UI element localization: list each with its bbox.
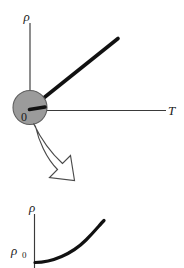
top-panel: ρ T 0 bbox=[13, 9, 176, 125]
bottom-panel: ρ ρ 0 bbox=[10, 200, 104, 268]
top-rho-label: ρ bbox=[23, 9, 30, 24]
rho-zero-subscript: 0 bbox=[22, 250, 27, 260]
callout-arrow-shape bbox=[34, 124, 75, 181]
bottom-rho-label: ρ bbox=[28, 200, 35, 215]
top-T-label: T bbox=[168, 103, 176, 118]
magnifier-arrow bbox=[34, 124, 75, 181]
blob-ray-stub bbox=[30, 107, 46, 110]
physics-figure: ρ T 0 ρ ρ 0 bbox=[0, 0, 184, 268]
origin-zero-label: 0 bbox=[21, 110, 27, 124]
residual-resistivity-curve bbox=[35, 221, 104, 263]
figure-canvas: ρ T 0 ρ ρ 0 bbox=[0, 0, 184, 268]
rho-zero-label: ρ bbox=[10, 243, 17, 258]
